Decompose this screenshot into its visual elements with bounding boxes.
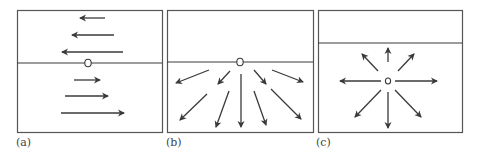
panel-b bbox=[167, 11, 314, 133]
diagram-canvas bbox=[0, 0, 477, 156]
panel-frame bbox=[18, 11, 163, 133]
arrow-icon bbox=[355, 90, 381, 117]
arrow-icon bbox=[271, 89, 301, 119]
panel-label-c: (c) bbox=[316, 136, 331, 149]
source-point-icon bbox=[385, 78, 390, 84]
arrow-icon bbox=[218, 71, 230, 84]
panel-label-a: (a) bbox=[16, 136, 31, 149]
panel-c bbox=[318, 11, 463, 133]
panel-a bbox=[17, 11, 163, 133]
arrow-icon bbox=[216, 91, 229, 127]
source-point-icon bbox=[237, 58, 243, 66]
arrow-icon bbox=[395, 90, 421, 117]
source-point-icon bbox=[85, 59, 91, 67]
arrow-icon bbox=[176, 70, 209, 83]
arrow-icon bbox=[254, 91, 266, 125]
panel-label-b: (b) bbox=[166, 136, 182, 149]
arrow-icon bbox=[362, 54, 378, 71]
arrow-icon bbox=[180, 94, 207, 120]
arrow-icon bbox=[398, 54, 414, 71]
panel-frame bbox=[319, 11, 463, 133]
arrow-icon bbox=[272, 70, 303, 82]
arrow-icon bbox=[254, 70, 266, 84]
